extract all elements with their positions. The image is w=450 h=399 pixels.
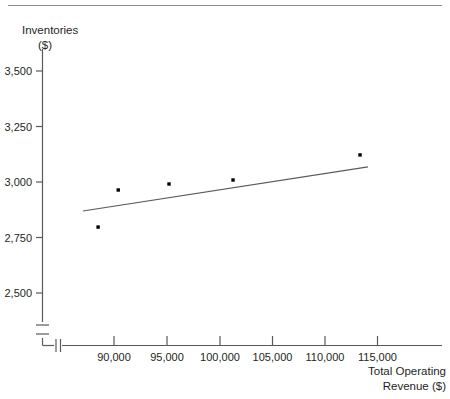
x-tick-label: 100,000 (200, 351, 240, 363)
data-point (167, 182, 170, 185)
trend-line (83, 167, 368, 211)
y-tick-marks (36, 71, 43, 293)
data-point (358, 153, 361, 156)
x-tick-label: 95,000 (150, 351, 184, 363)
x-tick-labels: 90,000 95,000 100,000 105,000 110,000 11… (97, 351, 397, 363)
x-tick-label: 105,000 (253, 351, 293, 363)
y-tick-label: 3,000 (4, 176, 32, 188)
y-tick-label: 2,750 (4, 232, 32, 244)
chart-figure: Inventories ($) Total Operating Revenue … (0, 0, 450, 399)
y-tick-label: 2,500 (4, 287, 32, 299)
y-tick-label: 3,250 (4, 121, 32, 133)
data-points (96, 153, 361, 229)
x-tick-label: 90,000 (97, 351, 131, 363)
data-point (231, 178, 234, 181)
data-point (117, 188, 120, 191)
data-point (96, 225, 99, 228)
y-tick-label: 3,500 (4, 65, 32, 77)
x-tick-label: 115,000 (358, 351, 397, 363)
x-tick-label: 110,000 (306, 351, 345, 363)
x-tick-marks (114, 336, 378, 346)
y-tick-labels: 3,500 3,250 3,000 2,750 2,500 (4, 65, 32, 299)
plot-svg: 3,500 3,250 3,000 2,750 2,500 90,000 95,… (0, 0, 450, 399)
